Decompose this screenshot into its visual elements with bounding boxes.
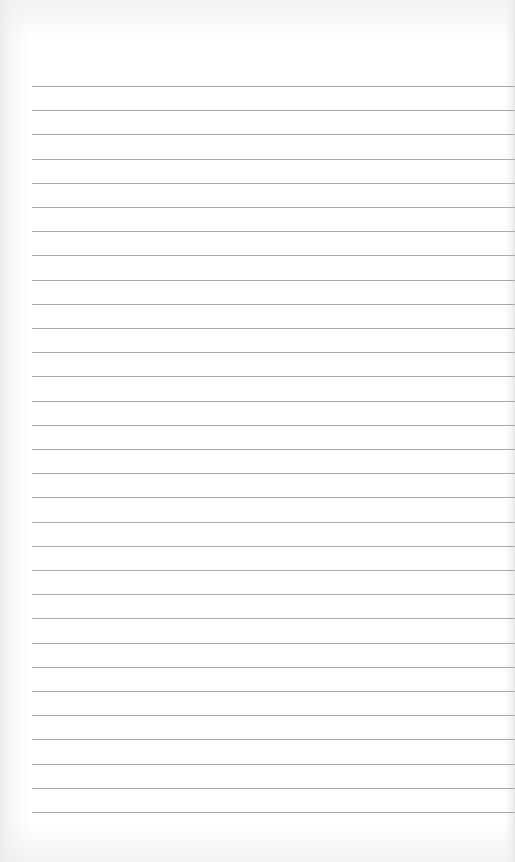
ruled-line: [32, 497, 515, 498]
ruled-line: [32, 618, 515, 619]
ruled-line: [32, 231, 515, 232]
ruled-line: [32, 352, 515, 353]
ruled-line: [32, 183, 515, 184]
ruled-lines: [32, 0, 515, 862]
ruled-line: [32, 328, 515, 329]
ruled-line: [32, 425, 515, 426]
ruled-line: [32, 207, 515, 208]
ruled-line: [32, 304, 515, 305]
ruled-line: [32, 715, 515, 716]
ruled-line: [32, 86, 515, 87]
ruled-line: [32, 570, 515, 571]
ruled-line: [32, 522, 515, 523]
notebook-page: [0, 0, 515, 862]
ruled-line: [32, 643, 515, 644]
ruled-line: [32, 110, 515, 111]
ruled-line: [32, 376, 515, 377]
ruled-line: [32, 691, 515, 692]
ruled-line: [32, 812, 515, 813]
ruled-line: [32, 255, 515, 256]
ruled-line: [32, 739, 515, 740]
ruled-line: [32, 667, 515, 668]
ruled-line: [32, 401, 515, 402]
ruled-line: [32, 134, 515, 135]
ruled-line: [32, 788, 515, 789]
ruled-line: [32, 546, 515, 547]
ruled-line: [32, 159, 515, 160]
ruled-line: [32, 449, 515, 450]
ruled-line: [32, 280, 515, 281]
ruled-line: [32, 764, 515, 765]
ruled-line: [32, 473, 515, 474]
ruled-line: [32, 594, 515, 595]
